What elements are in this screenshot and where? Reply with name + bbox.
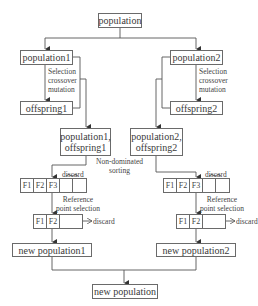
op-crossover: crossover <box>48 76 77 85</box>
new-population-label: new population <box>94 286 156 297</box>
left-fronts-row2: F1 F2 <box>33 214 83 229</box>
front-cell <box>60 179 73 192</box>
ref-line2: point selection <box>56 204 100 213</box>
combined2-line1: population2, <box>131 131 181 142</box>
ref-line1: Reference <box>200 195 244 204</box>
right-ref-label: Reference point selection <box>200 195 244 213</box>
new-population2-box: new population2 <box>156 243 236 257</box>
combined1-line2: offspring1 <box>65 142 106 153</box>
front-cell: F2 <box>34 179 47 192</box>
population-label: population <box>99 15 142 26</box>
right-fronts-row2: F1 F2 <box>176 214 226 229</box>
right-fronts-row1: F1 F2 F3 <box>163 178 230 193</box>
front-cell <box>60 215 82 228</box>
op-selection: Selection <box>199 67 228 76</box>
population1-label: population1 <box>23 52 71 63</box>
left-operators-label: Selection crossover mutation <box>48 67 77 94</box>
sorting-line1: Non-dominated <box>96 157 143 166</box>
front-cell: F2 <box>47 215 60 228</box>
population2-offspring2-box: population2, offspring2 <box>130 128 183 156</box>
new-population-box: new population <box>92 284 158 299</box>
right-operators-label: Selection crossover mutation <box>199 67 228 94</box>
left-ref-label: Reference point selection <box>56 195 100 213</box>
sorting-line2: sorting <box>96 166 143 175</box>
front-cell <box>73 179 86 192</box>
right-discard-side-label: discard <box>236 217 258 226</box>
front-cell: F1 <box>34 215 47 228</box>
front-cell: F1 <box>164 179 177 192</box>
front-cell: F2 <box>190 215 203 228</box>
front-cell <box>216 179 229 192</box>
population1-offspring1-box: population1, offspring1 <box>60 128 111 156</box>
front-cell <box>203 215 225 228</box>
op-crossover: crossover <box>199 76 228 85</box>
new-population1-label: new population1 <box>19 245 86 256</box>
front-cell: F1 <box>21 179 34 192</box>
population2-box: population2 <box>170 50 223 65</box>
ref-line1: Reference <box>56 195 100 204</box>
offspring2-box: offspring2 <box>170 101 223 115</box>
population2-label: population2 <box>173 52 221 63</box>
op-mutation: mutation <box>199 85 228 94</box>
new-population1-box: new population1 <box>12 243 92 257</box>
ref-line2: point selection <box>200 204 244 213</box>
population1-box: population1 <box>20 50 73 65</box>
combined2-line2: offspring2 <box>136 142 177 153</box>
front-cell: F2 <box>177 179 190 192</box>
new-population2-label: new population2 <box>163 245 230 256</box>
front-cell: F1 <box>177 215 190 228</box>
combined1-line1: population1, <box>60 131 110 142</box>
op-mutation: mutation <box>48 85 77 94</box>
offspring1-box: offspring1 <box>20 101 73 115</box>
connector-lines <box>0 0 258 306</box>
front-cell: F3 <box>190 179 203 192</box>
op-selection: Selection <box>48 67 77 76</box>
front-cell: F3 <box>47 179 60 192</box>
left-fronts-row1: F1 F2 F3 <box>20 178 87 193</box>
offspring1-label: offspring1 <box>26 103 67 114</box>
front-cell <box>203 179 216 192</box>
population-box: population <box>98 13 142 28</box>
offspring2-label: offspring2 <box>176 103 217 114</box>
left-discard-side-label: discard <box>93 217 115 226</box>
sorting-label: Non-dominated sorting <box>96 157 143 175</box>
